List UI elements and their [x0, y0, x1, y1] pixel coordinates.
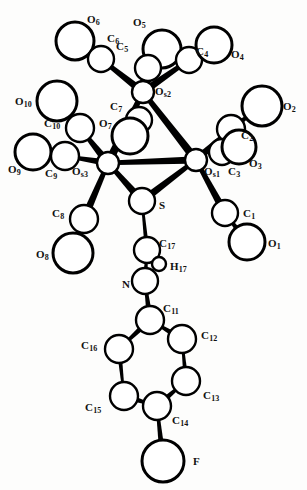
- bond-C15-C16: [118, 361, 124, 384]
- atom-label-c15: C15: [85, 402, 101, 415]
- atom-os3: [97, 152, 119, 174]
- atom-label-c8: C8: [52, 208, 64, 221]
- bond-Os2-Os1: [146, 97, 193, 155]
- atom-label-c11: C11: [163, 303, 179, 316]
- atom-label-c17: C17: [159, 238, 175, 251]
- atom-label-n: N: [122, 279, 130, 290]
- atom-os2: [132, 81, 154, 103]
- atom-label-os2: Os2: [155, 86, 171, 99]
- atom-label-o6: O6: [87, 14, 100, 27]
- atom-c10: [66, 114, 94, 142]
- bond-Os3-C8: [86, 170, 107, 209]
- atom-f: [142, 440, 184, 482]
- atom-label-h17: H17: [170, 261, 187, 274]
- atom-label-c1: C1: [243, 208, 255, 221]
- atom-c8: [70, 205, 98, 233]
- atom-label-s: S: [159, 200, 165, 211]
- atom-o1: [229, 224, 265, 260]
- atom-c6: [88, 46, 114, 72]
- atom-c14: [143, 392, 171, 420]
- atom-label-os3: Os3: [72, 166, 88, 179]
- atom-label-o4: O4: [231, 49, 244, 62]
- atom-label-c13: C13: [203, 390, 219, 403]
- atom-h17: [152, 257, 166, 271]
- atom-label-c12: C12: [201, 330, 217, 343]
- atom-label-o7: O7: [99, 118, 112, 131]
- molecular-structure-figure: O6C6O5C5C4O4Os2O10C10C7O7C2O2O9C9Os3Os1C…: [0, 0, 307, 490]
- atom-label-c16: C16: [81, 340, 97, 353]
- atom-c15: [110, 382, 138, 410]
- atom-s: [129, 188, 155, 214]
- atom-n: [132, 268, 158, 294]
- atom-label-c9: C9: [45, 168, 57, 181]
- atom-label-os1: Os1: [204, 166, 220, 179]
- atom-c16: [105, 335, 133, 363]
- atom-label-f: F: [193, 456, 200, 467]
- atom-o2: [242, 86, 282, 126]
- bond-Os3-Os1: [117, 157, 187, 165]
- atom-group: [15, 22, 282, 482]
- atom-o10: [37, 81, 77, 121]
- atom-label-o3: O3: [249, 158, 262, 171]
- atom-o7: [112, 118, 148, 154]
- bond-S-C17: [142, 212, 148, 239]
- atom-label-c14: C14: [172, 415, 188, 428]
- atom-o8: [53, 233, 93, 273]
- atom-label-o8: O8: [36, 249, 49, 262]
- atom-label-o1: O1: [268, 238, 281, 251]
- atom-label-c7: C7: [110, 101, 122, 114]
- bond-Os1-S: [149, 164, 191, 198]
- atom-label-c4: C4: [196, 46, 208, 59]
- atom-label-o9: O9: [8, 164, 21, 177]
- atom-label-c3: C3: [228, 166, 240, 179]
- bond-layer: [0, 0, 307, 490]
- atom-label-c2: C2: [241, 130, 253, 143]
- atom-c12: [168, 325, 196, 353]
- atom-label-o10: O10: [15, 96, 32, 109]
- atom-c13: [172, 367, 200, 395]
- atom-label-c5: C5: [116, 41, 128, 54]
- atom-c5: [135, 55, 161, 81]
- atom-label-c10: C10: [44, 118, 60, 131]
- atom-label-o5: O5: [133, 17, 146, 30]
- atom-c11: [136, 306, 164, 334]
- atom-label-o2: O2: [283, 101, 296, 114]
- atom-c1: [212, 200, 238, 226]
